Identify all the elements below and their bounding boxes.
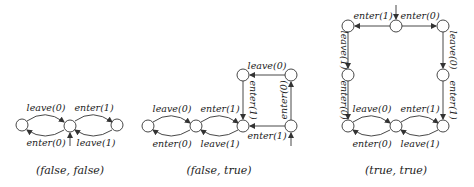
state-node	[437, 120, 449, 132]
transition-label: enter(0)	[339, 80, 350, 119]
transition-label: enter(1)	[400, 103, 439, 114]
transition-arrow	[401, 116, 438, 123]
transition-label: enter(0)	[400, 10, 439, 21]
state-node	[142, 120, 154, 132]
transition-arrow	[353, 116, 390, 123]
transition-arrow	[27, 130, 64, 136]
transition-label: enter(0)	[26, 137, 65, 148]
state-node	[285, 120, 297, 132]
transition-arrow	[75, 115, 112, 122]
transition-arrow	[201, 116, 238, 123]
state-node	[64, 120, 76, 132]
transition-label: leave(1)	[339, 31, 350, 70]
state-node	[390, 20, 402, 32]
transition-label: leave(1)	[77, 137, 116, 148]
transition-label: enter(1)	[200, 103, 239, 114]
state-node	[342, 69, 354, 81]
state-node	[190, 120, 202, 132]
transition-label: leave(0)	[248, 60, 287, 71]
transition-label: enter(1)	[353, 10, 392, 21]
diagram-false-false: leave(0) enter(1) enter(0) leave(1) (fal…	[16, 102, 123, 177]
transition-label: enter(1)	[74, 102, 113, 113]
transition-arrow	[153, 130, 190, 136]
transition-arrow	[75, 130, 112, 136]
state-node	[342, 120, 354, 132]
state-node	[437, 69, 449, 81]
transition-label: leave(1)	[201, 138, 240, 149]
state-node	[16, 119, 28, 131]
state-node	[111, 119, 123, 131]
state-node	[285, 69, 297, 81]
diagram-caption: (false, false)	[36, 164, 104, 177]
transition-arrow	[353, 130, 390, 136]
state-diagram-figure: leave(0) enter(1) enter(0) leave(1) (fal…	[0, 0, 474, 187]
transition-label: leave(0)	[353, 103, 392, 114]
transition-arrow	[153, 116, 190, 123]
diagram-true-true: enter(1) enter(0) leave(1) enter(0) leav…	[339, 5, 459, 177]
transition-label: enter(1)	[248, 80, 259, 119]
diagram-false-true: leave(0) enter(1) enter(0) leave(1) leav…	[142, 60, 297, 177]
transition-label: leave(0)	[448, 31, 459, 70]
state-node	[437, 20, 449, 32]
transition-label: enter(0)	[152, 138, 191, 149]
transition-label: leave(1)	[401, 138, 440, 149]
transition-arrow	[401, 130, 438, 136]
transition-label: enter(1)	[448, 80, 459, 119]
diagram-caption: (true, true)	[365, 164, 427, 177]
transition-label: leave(0)	[153, 103, 192, 114]
transition-label: enter(0)	[278, 80, 289, 119]
transition-label: enter(0)	[352, 138, 391, 149]
transition-arrow	[27, 115, 64, 122]
diagram-caption: (false, true)	[186, 164, 251, 177]
state-node	[390, 120, 402, 132]
transition-label: enter(1)	[247, 130, 286, 141]
transition-label: leave(0)	[27, 102, 66, 113]
transition-arrow	[201, 130, 238, 136]
